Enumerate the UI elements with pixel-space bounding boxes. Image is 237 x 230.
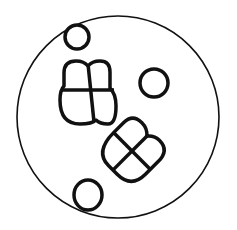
microscope-diagram bbox=[0, 0, 237, 230]
background bbox=[0, 0, 237, 230]
